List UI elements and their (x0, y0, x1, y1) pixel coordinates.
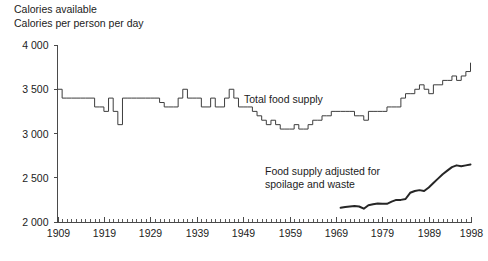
x-axis-minor-ticks (59, 219, 472, 223)
series-label-food-supply-adjusted: Food supply adjusted for spoilage and wa… (265, 165, 380, 191)
series-label-total-food-supply: Total food supply (244, 93, 323, 106)
x-axis-tick-label: 1959 (279, 227, 303, 239)
series-label-adjusted-line2: spoilage and waste (265, 178, 380, 191)
x-axis-tick-label: 1998 (460, 227, 484, 239)
chart-plot-area: 4 0003 5003 0002 5002 000 19091919192919… (0, 0, 488, 261)
x-axis-tick-labels: 1909191919291939194919591969197919891998 (47, 227, 484, 239)
y-axis: 4 0003 5003 0002 5002 000 (22, 39, 57, 228)
y-axis-tick-labels: 4 0003 5003 0002 5002 000 (22, 39, 48, 228)
chart-container: Calories available Calories per person p… (0, 0, 488, 261)
x-axis-tick-label: 1969 (325, 227, 349, 239)
x-axis: 1909191919291939194919591969197919891998 (47, 217, 484, 240)
x-axis-major-ticks (59, 217, 472, 223)
x-axis-tick-label: 1909 (47, 227, 71, 239)
x-axis-tick-label: 1919 (93, 227, 117, 239)
x-axis-tick-label: 1989 (418, 227, 442, 239)
y-axis-ticks (54, 45, 58, 222)
y-axis-tick-label: 2 000 (22, 216, 48, 228)
series-label-total-text: Total food supply (244, 93, 323, 106)
x-axis-tick-label: 1949 (232, 227, 256, 239)
y-axis-tick-label: 3 000 (22, 128, 48, 140)
y-axis-tick-label: 4 000 (22, 39, 48, 51)
x-axis-tick-label: 1939 (186, 227, 210, 239)
x-axis-tick-label: 1979 (371, 227, 395, 239)
y-axis-tick-label: 2 500 (22, 172, 48, 184)
x-axis-tick-label: 1929 (139, 227, 163, 239)
series-label-adjusted-line1: Food supply adjusted for (265, 165, 380, 178)
y-axis-tick-label: 3 500 (22, 83, 48, 95)
